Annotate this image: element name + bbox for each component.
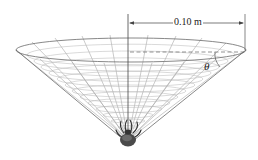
cone-web-diagram: [0, 0, 258, 160]
angle-label: θ: [204, 60, 209, 72]
angle-arc: [215, 52, 220, 67]
web-rings: [27, 44, 235, 128]
cone-rim: [16, 38, 246, 62]
dimension-label: 0.10 m: [173, 16, 203, 27]
